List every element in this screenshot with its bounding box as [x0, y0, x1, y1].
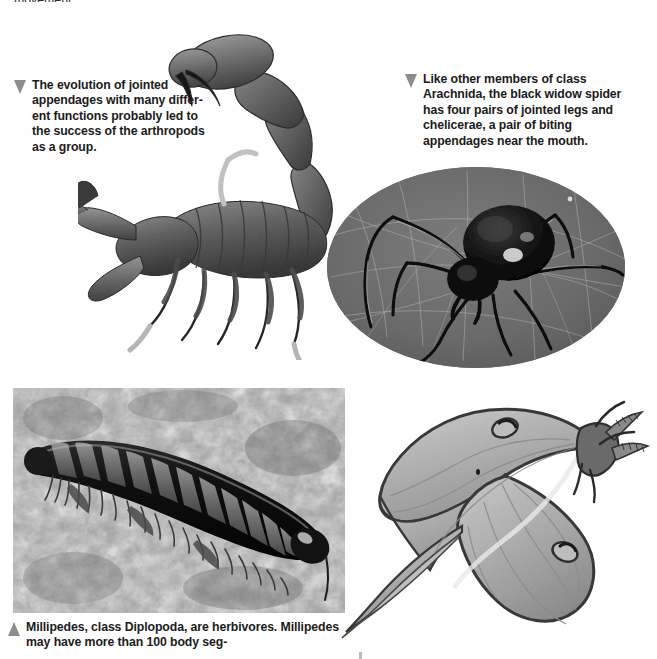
black-widow-spider-photo — [327, 167, 625, 368]
triangle-up-marker — [8, 622, 20, 636]
caption-scorpion-text: The evolution of jointed appendages with… — [32, 78, 214, 155]
caption-scorpion: The evolution of jointed appendages with… — [14, 78, 214, 155]
caption-millipede: Millipedes, class Diplopoda, are herbivo… — [8, 620, 348, 651]
clipped-body-text: movement. — [14, 0, 75, 2]
scorpion-photo — [78, 10, 378, 360]
triangle-down-marker — [405, 74, 417, 88]
textbook-figure-page: movement. — [0, 0, 657, 659]
millipede-photo — [13, 388, 345, 613]
caption-spider-text: Like other members of class Arachnida, t… — [423, 72, 645, 149]
caption-spider: Like other members of class Arachnida, t… — [405, 72, 645, 149]
clipped-bottom-text-mark — [359, 652, 362, 659]
luna-moth-photo — [338, 392, 650, 642]
caption-millipede-text: Millipedes, class Diplopoda, are herbivo… — [26, 620, 348, 651]
triangle-down-marker — [14, 80, 26, 94]
